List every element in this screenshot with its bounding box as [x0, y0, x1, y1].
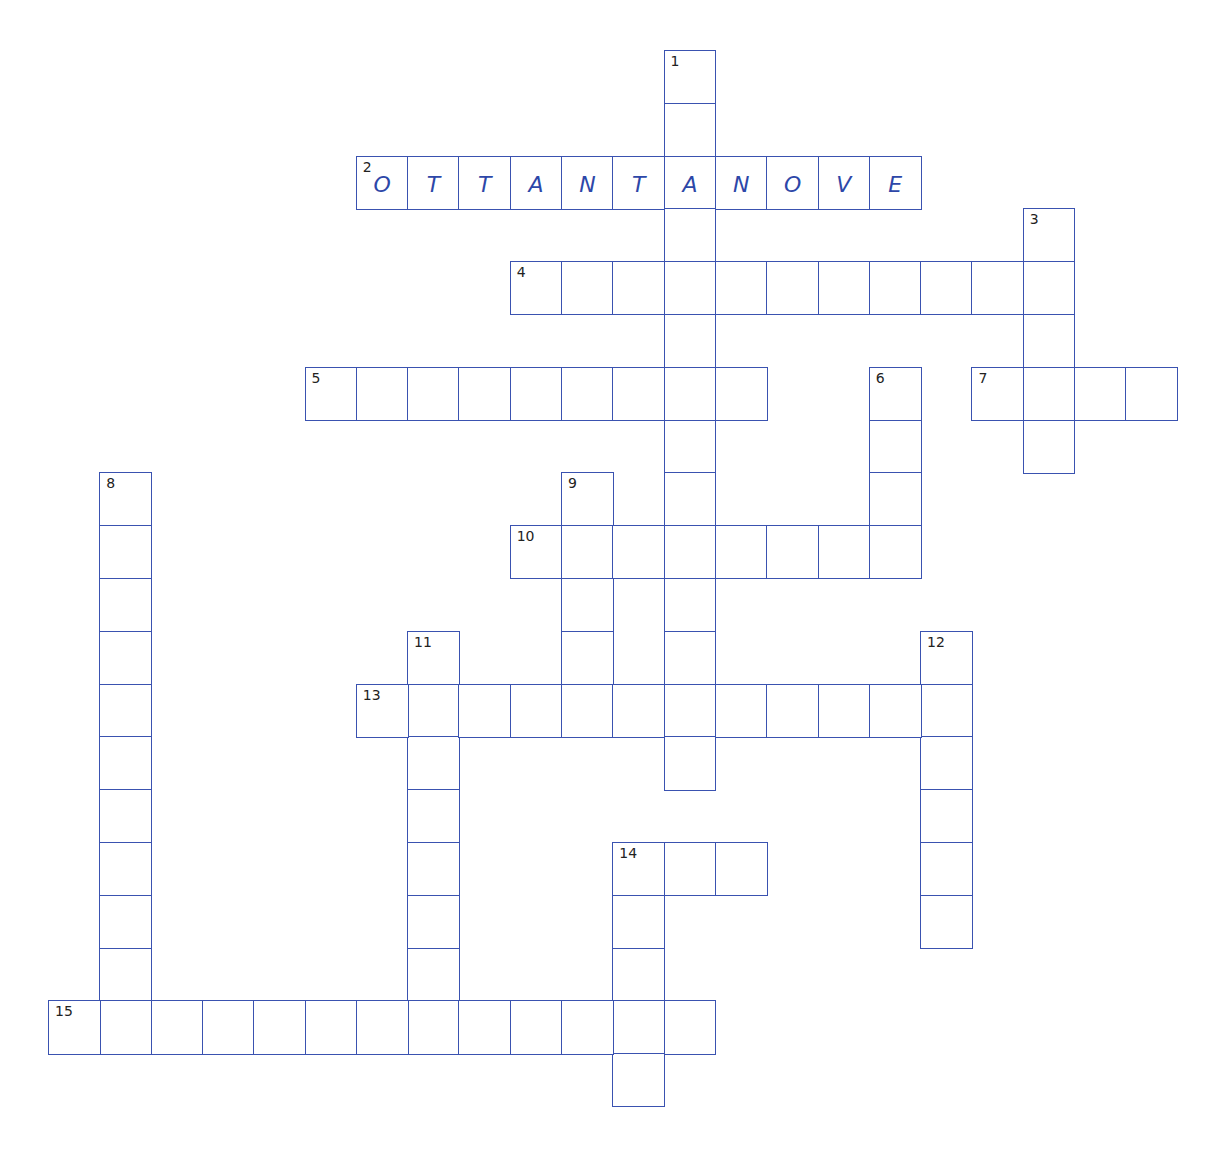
crossword-cell[interactable]	[407, 367, 460, 421]
crossword-cell[interactable]	[664, 208, 717, 262]
crossword-cell[interactable]	[561, 684, 614, 738]
cell-letter-input[interactable]	[870, 262, 921, 314]
cell-letter-input[interactable]	[665, 157, 716, 209]
cell-letter-input[interactable]	[562, 157, 613, 209]
cell-letter-input[interactable]	[511, 685, 562, 737]
cell-letter-input[interactable]	[562, 526, 613, 578]
crossword-cell[interactable]	[715, 684, 768, 738]
crossword-cell[interactable]	[1023, 314, 1076, 368]
crossword-cell[interactable]	[99, 1000, 152, 1054]
cell-letter-input[interactable]	[49, 1001, 100, 1053]
cell-letter-input[interactable]	[767, 157, 818, 209]
crossword-cell[interactable]	[664, 631, 717, 685]
crossword-cell[interactable]	[458, 684, 511, 738]
crossword-cell[interactable]	[99, 631, 152, 685]
crossword-cell[interactable]	[612, 1000, 665, 1054]
cell-letter-input[interactable]	[408, 157, 459, 209]
crossword-cell[interactable]	[1125, 367, 1178, 421]
crossword-cell[interactable]	[715, 261, 768, 315]
crossword-cell[interactable]: 4	[510, 261, 563, 315]
cell-letter-input[interactable]	[665, 843, 716, 895]
crossword-cell[interactable]: 15	[48, 1000, 101, 1054]
crossword-cell[interactable]	[561, 578, 614, 632]
crossword-cell[interactable]	[407, 156, 460, 210]
crossword-cell[interactable]	[561, 525, 614, 579]
cell-letter-input[interactable]	[511, 368, 562, 420]
crossword-cell[interactable]: 6	[869, 367, 922, 421]
cell-letter-input[interactable]	[716, 157, 767, 209]
cell-letter-input[interactable]	[459, 1001, 510, 1053]
crossword-cell[interactable]	[920, 684, 973, 738]
cell-letter-input[interactable]	[100, 896, 151, 948]
crossword-cell[interactable]	[1023, 420, 1076, 474]
crossword-cell[interactable]	[818, 525, 871, 579]
crossword-cell[interactable]	[1023, 367, 1076, 421]
cell-letter-input[interactable]	[408, 632, 459, 684]
cell-letter-input[interactable]	[870, 526, 921, 578]
crossword-cell[interactable]	[664, 684, 717, 738]
crossword-cell[interactable]	[253, 1000, 306, 1054]
cell-letter-input[interactable]	[819, 526, 870, 578]
crossword-cell[interactable]	[612, 525, 665, 579]
crossword-cell[interactable]	[715, 525, 768, 579]
crossword-cell[interactable]	[99, 736, 152, 790]
crossword-cell[interactable]	[766, 684, 819, 738]
cell-letter-input[interactable]	[819, 262, 870, 314]
cell-letter-input[interactable]	[716, 526, 767, 578]
crossword-cell[interactable]	[869, 261, 922, 315]
cell-letter-input[interactable]	[562, 685, 613, 737]
crossword-cell[interactable]	[920, 842, 973, 896]
cell-letter-input[interactable]	[716, 262, 767, 314]
cell-letter-input[interactable]	[665, 473, 716, 525]
cell-letter-input[interactable]	[511, 262, 562, 314]
crossword-cell[interactable]	[407, 789, 460, 843]
crossword-cell[interactable]	[664, 736, 717, 790]
cell-letter-input[interactable]	[921, 262, 972, 314]
cell-letter-input[interactable]	[100, 579, 151, 631]
cell-letter-input[interactable]	[665, 1001, 716, 1053]
crossword-cell[interactable]	[869, 156, 922, 210]
cell-letter-input[interactable]	[357, 368, 408, 420]
crossword-cell[interactable]	[305, 1000, 358, 1054]
crossword-cell[interactable]	[612, 156, 665, 210]
cell-letter-input[interactable]	[613, 896, 664, 948]
crossword-cell[interactable]	[664, 1000, 717, 1054]
cell-letter-input[interactable]	[665, 262, 716, 314]
crossword-cell[interactable]	[356, 367, 409, 421]
cell-letter-input[interactable]	[613, 157, 664, 209]
cell-letter-input[interactable]	[408, 896, 459, 948]
crossword-cell[interactable]	[561, 367, 614, 421]
crossword-cell[interactable]	[407, 895, 460, 949]
crossword-cell[interactable]: 13	[356, 684, 409, 738]
crossword-cell[interactable]	[1023, 261, 1076, 315]
crossword-cell[interactable]	[510, 684, 563, 738]
cell-letter-input[interactable]	[203, 1001, 254, 1053]
crossword-cell[interactable]	[202, 1000, 255, 1054]
cell-letter-input[interactable]	[665, 632, 716, 684]
crossword-cell[interactable]	[971, 261, 1024, 315]
crossword-cell[interactable]	[99, 948, 152, 1002]
crossword-cell[interactable]	[561, 631, 614, 685]
cell-letter-input[interactable]	[716, 685, 767, 737]
cell-letter-input[interactable]	[972, 262, 1023, 314]
crossword-cell[interactable]	[407, 1000, 460, 1054]
crossword-cell[interactable]	[869, 684, 922, 738]
cell-letter-input[interactable]	[562, 368, 613, 420]
crossword-cell[interactable]	[612, 261, 665, 315]
cell-letter-input[interactable]	[767, 685, 818, 737]
cell-letter-input[interactable]	[100, 632, 151, 684]
cell-letter-input[interactable]	[665, 579, 716, 631]
cell-letter-input[interactable]	[613, 262, 664, 314]
crossword-cell[interactable]	[1074, 367, 1127, 421]
cell-letter-input[interactable]	[408, 1001, 459, 1053]
cell-letter-input[interactable]	[1075, 368, 1126, 420]
cell-letter-input[interactable]	[665, 685, 716, 737]
crossword-cell[interactable]	[664, 261, 717, 315]
crossword-cell[interactable]	[99, 895, 152, 949]
cell-letter-input[interactable]	[767, 262, 818, 314]
crossword-cell[interactable]	[869, 525, 922, 579]
crossword-cell[interactable]	[920, 261, 973, 315]
cell-letter-input[interactable]	[1024, 209, 1075, 261]
crossword-cell[interactable]	[920, 789, 973, 843]
crossword-cell[interactable]	[561, 156, 614, 210]
